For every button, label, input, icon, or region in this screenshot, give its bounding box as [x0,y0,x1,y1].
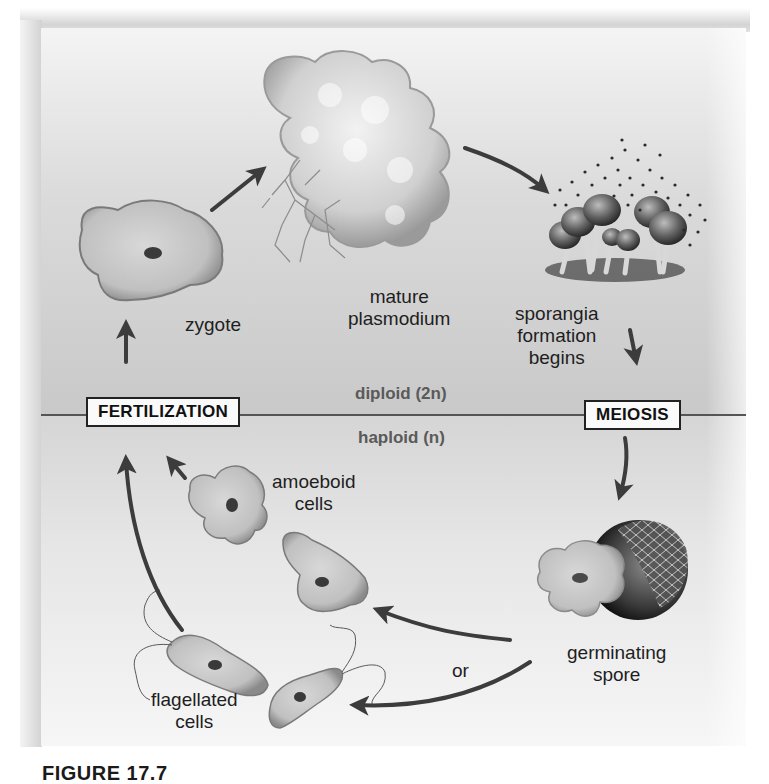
amoeboid-cell-2 [283,533,368,612]
arrow-sporangia-to-meiosis [630,330,636,360]
label-plasmodium: mature plasmodium [348,286,450,330]
flagellated-cell-1 [134,590,268,700]
label-sporangia-line-1: sporangia [515,303,598,325]
arrow-amoeboid-to-fertilization [170,460,185,478]
label-haploid-zone: haploid (n) [358,428,445,448]
label-spore-line-2: spore [567,664,666,686]
arrow-zygote-to-plasmodium [212,170,262,210]
label-spore-line-1: germinating [567,642,666,664]
label-amoeboid-line-2: cells [272,493,355,515]
label-flagellated: flagellated cells [151,689,238,733]
arrow-meiosis-to-spore [620,438,626,495]
arrow-spore-to-amoeboid [378,610,510,640]
label-flagellated-line-1: flagellated [151,689,238,711]
meiosis-event-box: MEIOSIS [584,400,681,430]
label-flagellated-line-2: cells [151,711,238,733]
zygote-cell-illustration [80,201,223,301]
label-amoeboid-line-1: amoeboid [272,471,355,493]
label-zygote: zygote [185,314,241,336]
figure-number: FIGURE 17.7 [42,762,168,784]
arrow-spore-to-flagellated [355,662,530,705]
label-plasmodium-line-2: plasmodium [348,308,450,330]
label-amoeboid: amoeboid cells [272,471,355,515]
amoeboid-cell-1 [189,466,267,544]
label-sporangia-line-3: begins [515,347,598,369]
arrow-flagellated-to-fertilization [126,460,182,630]
label-plasmodium-line-1: mature [348,286,450,308]
plasmodium-illustration [262,51,449,262]
figure-caption: FIGURE 17.7 [42,762,168,784]
sporangia-illustration [545,138,707,282]
label-or: or [452,660,469,682]
flagellated-cell-2 [269,625,385,728]
arrow-plasmodium-to-sporangia [465,148,545,190]
germinating-spore-illustration [538,520,688,620]
label-sporangia-line-2: formation [515,325,598,347]
fertilization-event-box: FERTILIZATION [86,397,240,427]
label-diploid-zone: diploid (2n) [355,384,447,404]
label-germinating-spore: germinating spore [567,642,666,686]
label-sporangia: sporangia formation begins [515,303,598,369]
